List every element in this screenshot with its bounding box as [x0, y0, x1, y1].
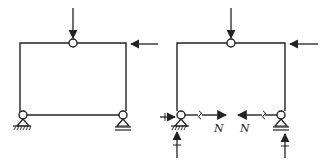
crown-hinge-icon	[69, 39, 77, 47]
tie-force-label-left: N	[213, 122, 224, 135]
right-frame	[177, 39, 285, 119]
crown-hinge-icon	[227, 39, 235, 47]
right-base-hinge-icon	[119, 111, 127, 119]
roller-support-icon	[115, 119, 131, 130]
break-mark-icon	[199, 111, 202, 119]
left-frame	[19, 39, 127, 119]
right-base-hinge-icon	[277, 111, 285, 119]
right-frame-right-beam-column	[235, 43, 285, 111]
right-frame-left-column	[177, 43, 227, 111]
horizontal-reaction-arrow-icon	[160, 113, 175, 121]
left-frame-left-column	[20, 43, 69, 115]
vertical-reaction-right-arrow-icon	[281, 134, 289, 158]
left-frame-right-beam-column	[77, 43, 126, 111]
pin-support-icon	[13, 119, 31, 130]
roller-support-icon	[273, 119, 289, 130]
left-base-hinge-icon	[177, 111, 185, 119]
vertical-reaction-left-arrow-icon	[173, 132, 181, 158]
pin-support-icon	[171, 119, 189, 130]
left-base-hinge-icon	[19, 111, 27, 119]
tie-force-label-right: N	[239, 122, 250, 135]
structural-diagram: N N	[0, 0, 323, 163]
break-mark-icon	[263, 111, 266, 119]
